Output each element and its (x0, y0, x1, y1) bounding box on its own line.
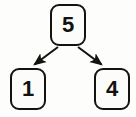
tree-node-right-child-label: 4 (106, 78, 118, 100)
tree-node-left-child[interactable]: 1 (10, 68, 46, 110)
edge-root-to-right (78, 47, 102, 65)
tree-node-left-child-label: 1 (22, 78, 34, 100)
tree-node-root-label: 5 (62, 14, 74, 36)
tree-node-right-child[interactable]: 4 (94, 68, 130, 110)
binary-tree-diagram: 5 1 4 (0, 0, 136, 117)
tree-node-root[interactable]: 5 (50, 4, 86, 46)
edge-root-to-left (35, 47, 59, 65)
